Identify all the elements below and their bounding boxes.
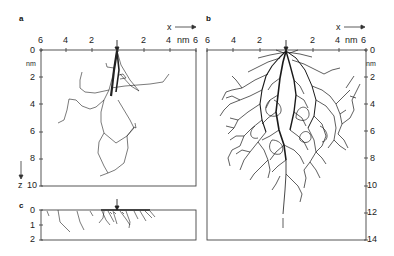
- panel-a-axes: [39, 48, 196, 186]
- panel-a-tracks: [58, 51, 169, 176]
- z-arrow-icon: [19, 161, 23, 179]
- panel-b-x-arrow-icon: [344, 25, 365, 29]
- panel-c-tracks: [47, 210, 155, 232]
- panel-a-x-arrow-icon: [175, 25, 196, 29]
- panel-b-tracks: [220, 50, 360, 228]
- panel-b-axes: [207, 48, 368, 240]
- panel-c-incidence-arrow-icon: [115, 199, 119, 210]
- panel-b-incidence-arrow-icon: [284, 40, 288, 51]
- panel-c-axes: [39, 210, 196, 240]
- figure-graphics: [0, 0, 394, 256]
